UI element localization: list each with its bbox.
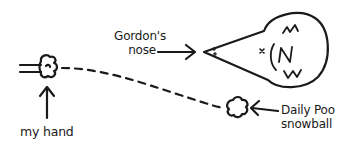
snowball-label: Daily Poo snowball xyxy=(281,104,335,130)
snowball-icon xyxy=(227,97,247,117)
trajectory-dashed-line xyxy=(62,68,223,108)
diagram-canvas: Gordon's nose my hand Daily Poo snowball xyxy=(0,0,356,151)
gordons-nose-label-line1: Gordon's xyxy=(108,30,166,44)
mole-head-icon xyxy=(204,13,328,87)
gordons-nose-label-line2: nose xyxy=(108,44,166,56)
my-hand-label: my hand xyxy=(20,126,74,138)
gordons-nose-label: Gordon's nose xyxy=(108,30,166,56)
speed-lines-icon xyxy=(20,65,41,72)
fist-icon xyxy=(40,55,58,77)
snowball-label-line2: snowball xyxy=(281,118,335,130)
snowball-arrow-icon xyxy=(251,101,278,115)
hand-arrow-icon xyxy=(40,87,54,118)
snowball-label-line1: Daily Poo xyxy=(281,104,335,118)
